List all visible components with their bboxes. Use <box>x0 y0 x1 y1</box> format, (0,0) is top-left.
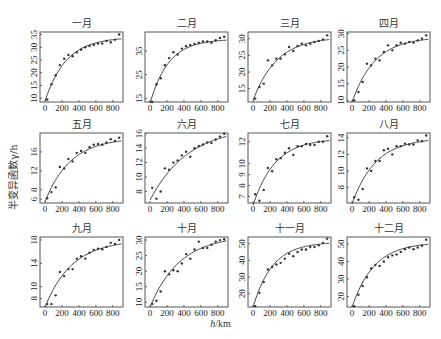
x-tick-label: 600 <box>297 103 311 113</box>
x-tick-label: 600 <box>396 308 410 318</box>
x-tick-label: 200 <box>263 204 277 214</box>
data-point <box>400 41 402 43</box>
data-point <box>181 154 183 156</box>
data-point <box>54 294 56 296</box>
x-tick-label: 200 <box>160 308 174 318</box>
data-point <box>50 191 52 193</box>
data-point <box>391 254 393 256</box>
y-tick-label: 30 <box>237 272 247 282</box>
data-point <box>417 139 419 141</box>
x-tick-label: 200 <box>160 103 174 113</box>
panel-jul: 七月02004006008007891012 <box>248 133 331 203</box>
data-point <box>189 258 191 260</box>
data-point <box>322 141 324 143</box>
fitted-curve <box>352 39 428 102</box>
data-point <box>421 245 423 247</box>
plot-frame <box>145 133 228 203</box>
y-tick-label: 25 <box>134 70 144 80</box>
data-point <box>164 64 166 66</box>
data-point <box>353 99 355 101</box>
data-point <box>176 159 178 161</box>
x-tick-label: 800 <box>211 308 225 318</box>
x-tick-label: 200 <box>362 204 376 214</box>
data-point <box>110 41 112 43</box>
x-tick-label: 0 <box>43 308 48 318</box>
data-point <box>395 44 397 46</box>
data-point <box>292 50 294 52</box>
x-tick-label: 0 <box>350 308 355 318</box>
x-tick-label: 0 <box>43 103 48 113</box>
data-point <box>258 200 260 202</box>
data-point <box>189 44 191 46</box>
data-point <box>215 138 217 140</box>
data-point <box>296 251 298 253</box>
data-point <box>301 42 303 44</box>
panel-title: 十二月 <box>347 223 430 234</box>
data-point <box>326 135 328 137</box>
data-point <box>63 275 65 277</box>
data-point <box>387 147 389 149</box>
data-point <box>202 143 204 145</box>
x-tick-label: 0 <box>148 308 153 318</box>
data-point <box>318 141 320 143</box>
data-point <box>54 74 56 76</box>
data-point <box>404 143 406 145</box>
data-point <box>425 134 427 136</box>
data-point <box>370 267 372 269</box>
panel-aug: 八月02004006008008101214 <box>347 133 430 203</box>
data-point <box>366 167 368 169</box>
fitted-curve <box>150 40 226 103</box>
plot-frame <box>248 237 331 307</box>
y-axis-label: 半变异函数γ/h <box>5 162 20 178</box>
data-point <box>313 41 315 43</box>
plot-frame <box>248 133 331 203</box>
panel-title: 十月 <box>145 223 228 234</box>
data-point <box>296 45 298 47</box>
data-point <box>318 40 320 42</box>
x-tick-label: 800 <box>413 204 427 214</box>
plot-area: 02004006008007891012 <box>248 133 331 203</box>
data-point <box>172 269 174 271</box>
data-point <box>301 248 303 250</box>
data-point <box>288 252 290 254</box>
data-point <box>425 34 427 36</box>
data-point <box>417 39 419 41</box>
data-point <box>421 140 423 142</box>
plot-frame <box>145 32 228 102</box>
data-point <box>378 265 380 267</box>
data-point <box>101 248 103 250</box>
y-tick-label: 20 <box>336 62 346 72</box>
data-point <box>326 34 328 36</box>
data-point <box>80 255 82 257</box>
data-point <box>271 170 273 172</box>
data-point <box>408 143 410 145</box>
data-point <box>383 149 385 151</box>
data-point <box>97 42 99 44</box>
data-point <box>366 62 368 64</box>
data-point <box>63 167 65 169</box>
y-tick-label: 50 <box>237 239 247 249</box>
data-point <box>80 150 82 152</box>
y-tick-label: 8 <box>237 183 247 188</box>
data-point <box>67 158 69 160</box>
x-tick-label: 200 <box>362 103 376 113</box>
plot-frame <box>347 133 430 203</box>
fitted-curve <box>253 141 329 206</box>
data-point <box>105 246 107 248</box>
data-point <box>267 167 269 169</box>
data-point <box>210 41 212 43</box>
panel-title: 一月 <box>40 18 123 29</box>
data-point <box>296 145 298 147</box>
y-tick-label: 50 <box>336 239 346 249</box>
x-tick-label: 600 <box>194 308 208 318</box>
plot-area: 020040060080015202530 <box>248 32 331 102</box>
panel-title: 九月 <box>40 223 123 234</box>
y-tick-label: 40 <box>237 255 247 265</box>
panel-nov: 十一月020040060080020304050 <box>248 237 331 307</box>
data-point <box>353 196 355 198</box>
data-point <box>185 151 187 153</box>
y-tick-label: 18 <box>29 235 39 245</box>
x-tick-label: 400 <box>379 103 393 113</box>
y-tick-label: 15 <box>336 79 346 89</box>
x-tick-label: 200 <box>55 204 69 214</box>
